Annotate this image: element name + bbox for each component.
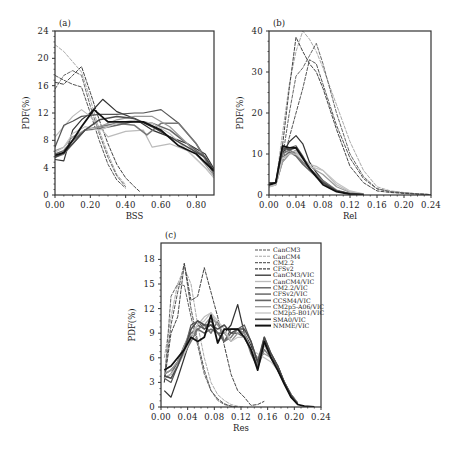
y-tick-label: 4 (43, 163, 49, 173)
y-tick-label: 16 (38, 81, 49, 91)
x-axis-label: Res (233, 423, 249, 433)
y-tick-label: 0 (43, 190, 49, 200)
figure: 048121620240.000.200.400.600.80BSSPDF(%)… (0, 0, 453, 451)
x-tick-label: 0.04 (178, 412, 198, 422)
y-tick-label: 0 (257, 190, 263, 200)
y-tick-label: 15 (144, 279, 155, 289)
y-axis-label: PDF(%) (127, 308, 137, 341)
y-tick-label: 8 (43, 135, 49, 145)
y-tick-label: 24 (38, 26, 49, 36)
x-tick-label: 0.12 (340, 200, 360, 210)
panel-label: (b) (273, 18, 285, 28)
x-tick-label: 0.00 (45, 200, 65, 210)
x-axis-label: Rel (343, 211, 357, 221)
y-tick-label: 20 (252, 108, 263, 118)
x-tick-label: 0.16 (258, 412, 278, 422)
x-tick-label: 0.60 (151, 200, 171, 210)
y-axis-label: PDF(%) (235, 96, 245, 129)
y-tick-label: 12 (144, 304, 155, 314)
figure-canvas: 048121620240.000.200.400.600.80BSSPDF(%)… (0, 0, 453, 451)
x-tick-label: 0.00 (151, 412, 171, 422)
x-axis-label: BSS (126, 211, 144, 221)
x-tick-label: 0.80 (186, 200, 206, 210)
x-tick-label: 0.40 (116, 200, 136, 210)
y-tick-label: 20 (38, 53, 49, 63)
y-tick-label: 0 (149, 402, 155, 412)
y-axis-label: PDF(%) (21, 96, 31, 129)
y-tick-label: 10 (252, 149, 263, 159)
series-group (55, 45, 214, 192)
legend: CanCM3CanCM4CM2.2CFSv2CanCM3/VICCanCM4/V… (255, 246, 324, 329)
x-tick-label: 0.20 (80, 200, 100, 210)
x-tick-label: 0.24 (311, 412, 331, 422)
panel-b-rel-chart: 0102030400.000.040.080.120.160.200.24Rel… (235, 18, 441, 221)
series-group (269, 31, 431, 195)
series-line (164, 321, 297, 404)
series-line (269, 60, 431, 195)
x-tick-label: 0.20 (284, 412, 304, 422)
y-tick-label: 18 (144, 254, 155, 264)
panel-label: (c) (165, 230, 176, 240)
legend-label: NMME/VIC (273, 322, 310, 329)
panel-a-bss-chart: 048121620240.000.200.400.600.80BSSPDF(%)… (21, 18, 214, 221)
y-tick-label: 12 (38, 108, 49, 118)
x-tick-label: 0.00 (259, 200, 279, 210)
series-line (269, 37, 431, 194)
x-tick-label: 0.16 (367, 200, 387, 210)
x-tick-label: 0.08 (313, 200, 333, 210)
panel-c-res-chart: 03691215180.000.040.080.120.160.200.24Re… (127, 230, 331, 433)
series-line (269, 43, 431, 194)
y-tick-label: 30 (252, 67, 263, 77)
y-tick-label: 6 (149, 353, 155, 363)
y-tick-label: 40 (252, 26, 263, 36)
y-tick-label: 3 (149, 377, 155, 387)
x-tick-label: 0.24 (421, 200, 441, 210)
x-tick-label: 0.08 (204, 412, 224, 422)
y-tick-label: 9 (149, 328, 155, 338)
x-tick-label: 0.12 (231, 412, 251, 422)
panel-label: (a) (59, 18, 71, 28)
x-tick-label: 0.20 (394, 200, 414, 210)
x-tick-label: 0.04 (286, 200, 306, 210)
